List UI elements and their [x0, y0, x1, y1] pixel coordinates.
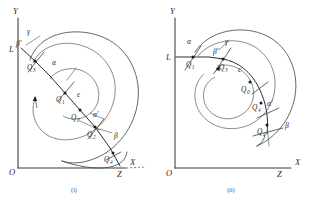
point-label-L-i: L [8, 44, 14, 54]
diagram-i-canvas: Y X O L Z Q 3 Q 1 Q 0 Q 2 Q [0, 0, 156, 207]
angle-label-alpha-prime-i: α′ [93, 110, 99, 119]
point-label-Q1-ii: Q 1 [186, 60, 195, 70]
x-axis-label-ii: X [294, 157, 301, 167]
figure-pair: Y X O L Z Q 3 Q 1 Q 0 Q 2 Q [0, 0, 313, 207]
x-axis-label-i: X [129, 157, 136, 167]
point-label-Q4-ii: Q 4 [252, 103, 261, 113]
figure-panel-i: Y X O L Z Q 3 Q 1 Q 0 Q 2 Q [0, 0, 156, 207]
point-label-L-ii: L [165, 52, 171, 62]
point-label-Q0-sub-i: 0 [77, 117, 80, 123]
point-label-Q2-i: Q 2 [87, 130, 96, 140]
angle-label-alpha-i: α [52, 58, 57, 67]
direction-arrow-head-i [33, 96, 37, 101]
point-marker-Q2-ii [266, 124, 269, 127]
point-marker-Q0-i [79, 109, 82, 112]
point-marker-Q1-ii [192, 56, 195, 59]
caption-i: (i) [71, 186, 77, 194]
angle-arm-alpha-i [67, 68, 76, 80]
point-label-Q4-i: Q 4 [104, 155, 113, 165]
point-label-Q0-sub-ii: 0 [247, 89, 250, 95]
point-label-Q3-ii: Q 3 [219, 63, 228, 73]
origin-label-i: O [9, 167, 15, 177]
angle-arm-gamma-i [26, 36, 40, 45]
point-marker-Q0-ii [249, 81, 252, 84]
angle-label-gamma-ii: γ [225, 37, 229, 46]
caption-ii: (ii) [227, 186, 235, 194]
point-marker-Q4-i [112, 152, 115, 155]
point-label-Q3-sub-i: 3 [33, 67, 36, 73]
point-label-Q0-ii: Q 0 [241, 85, 250, 95]
figure-panel-ii: Y X O L Z Q 1 Q 3 Q 0 Q 4 Q [157, 0, 313, 207]
point-marker-Q2-i [94, 126, 97, 129]
point-marker-Q1-i [64, 92, 67, 95]
point-label-Q3-sub-ii: 3 [225, 67, 228, 73]
point-label-Q1-sub-ii: 1 [192, 64, 195, 70]
point-marker-Q4-ii [260, 102, 263, 105]
point-label-Z-i: Z [117, 169, 122, 179]
x-axis-extension-i [126, 167, 146, 168]
origin-label-ii: O [166, 168, 172, 178]
y-axis-label-i: Y [13, 6, 19, 16]
ray-Q3-Q2-ii [223, 59, 268, 134]
angle-arm-beta2-i [80, 121, 100, 130]
ray-LZ-i [21, 48, 120, 166]
ray-L-Q3-ii [176, 57, 223, 59]
angle-label-epsilon-ii: ε [238, 65, 241, 74]
point-label-Z-ii: Z [277, 169, 282, 179]
point-marker-Q3-ii [222, 58, 225, 61]
point-label-Q3-i: Q 3 [27, 63, 36, 73]
spiral-inner-i [50, 69, 99, 119]
angle-label-beta-prime-i: β′ [15, 39, 22, 48]
point-label-Q2-ii: Q 2 [257, 127, 266, 137]
point-label-Q1-i: Q 1 [56, 95, 65, 105]
point-label-Q0-i: Q 0 [71, 113, 80, 123]
diagram-ii-canvas: Y X O L Z Q 1 Q 3 Q 0 Q 4 Q [157, 0, 313, 207]
point-label-Q4-sub-ii: 4 [258, 107, 261, 113]
angle-label-beta-prime-ii: β′ [212, 47, 219, 56]
angle-label-gamma-i: γ [27, 27, 31, 36]
point-marker-Q3-i [34, 60, 37, 63]
spiral-middle-i [33, 43, 115, 140]
angle-label-alpha-prime-ii: α′ [267, 99, 273, 108]
point-label-Q4-sub-i: 4 [110, 159, 113, 165]
tangent-tick-Q0-ii [252, 82, 268, 94]
y-axis-label-ii: Y [170, 6, 176, 16]
point-label-Q1-sub-i: 1 [62, 99, 65, 105]
angle-label-alpha-ii: α [187, 37, 192, 46]
angle-label-epsilon-i: ε [77, 90, 80, 99]
angle-label-beta-i: β [113, 131, 118, 140]
point-label-Q2-sub-i: 2 [93, 134, 96, 140]
point-label-Q2-sub-ii: 2 [263, 131, 266, 137]
spiral-outer-i [30, 32, 138, 163]
angle-label-beta-ii: β [284, 121, 289, 130]
